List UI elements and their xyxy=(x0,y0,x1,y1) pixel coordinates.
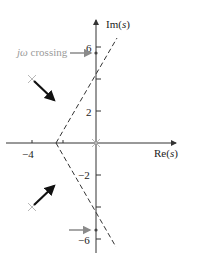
tick-label-minus2: −2 xyxy=(78,169,90,181)
tick-label-2: 2 xyxy=(86,106,92,118)
imag-axis xyxy=(96,20,101,253)
direction-arrow-lower xyxy=(34,186,54,205)
jw-crossing-dot-lower xyxy=(94,228,97,231)
real-axis xyxy=(6,140,176,143)
asymptote-lower xyxy=(56,143,116,247)
direction-arrow-upper xyxy=(34,81,54,100)
root-locus-diagram: −4 6 2 −2 −6 Im(s) Re(s) jω crossing xyxy=(0,0,197,263)
jw-crossing-dot-upper xyxy=(94,51,97,54)
tick-label-minus6: −6 xyxy=(78,234,90,246)
jw-crossing-label: jω crossing xyxy=(15,46,68,58)
imag-axis-label: Im(s) xyxy=(106,18,130,31)
real-axis-label: Re(s) xyxy=(154,147,178,160)
tick-label-6: 6 xyxy=(86,42,92,54)
tick-label-minus4: −4 xyxy=(22,148,34,160)
